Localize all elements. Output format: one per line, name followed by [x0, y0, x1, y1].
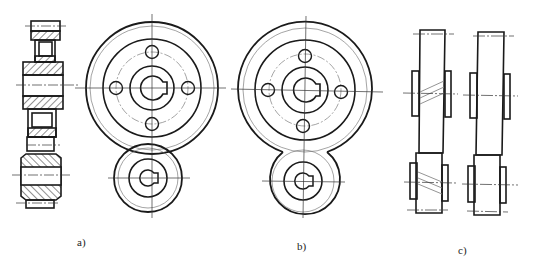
panel-label-c: c) [458, 244, 467, 256]
front-view-b [238, 22, 372, 215]
section-view-a [21, 21, 63, 208]
gear-drawing [0, 0, 538, 263]
panel-label-a: a) [77, 236, 86, 248]
panel-label-b: b) [297, 240, 306, 252]
